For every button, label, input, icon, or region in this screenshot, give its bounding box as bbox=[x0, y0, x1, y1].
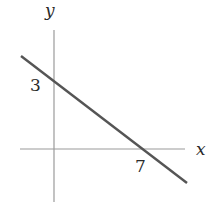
line-graph: x y 3 7 bbox=[0, 0, 219, 209]
data-line bbox=[21, 56, 187, 183]
x-intercept-label: 7 bbox=[135, 156, 146, 176]
x-axis-label: x bbox=[196, 139, 206, 159]
y-intercept-label: 3 bbox=[30, 75, 41, 95]
y-axis-label: y bbox=[44, 0, 55, 20]
